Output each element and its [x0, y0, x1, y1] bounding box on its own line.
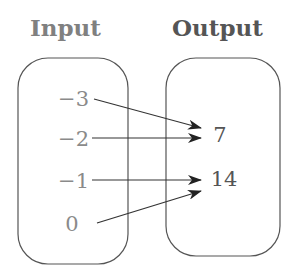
- mapping-arrow-neg3-to-7: [94, 99, 201, 128]
- input-value: 0: [65, 212, 78, 236]
- input-value: −2: [58, 127, 89, 151]
- output-value: 7: [213, 123, 226, 147]
- mapping-arrow-0-to-14: [97, 191, 201, 223]
- output-value: 14: [211, 167, 238, 191]
- mapping-diagram: −3 −2 −1 0 7 14: [0, 0, 292, 273]
- output-set-box: [166, 58, 280, 256]
- input-value: −1: [58, 169, 89, 193]
- input-value: −3: [58, 87, 89, 111]
